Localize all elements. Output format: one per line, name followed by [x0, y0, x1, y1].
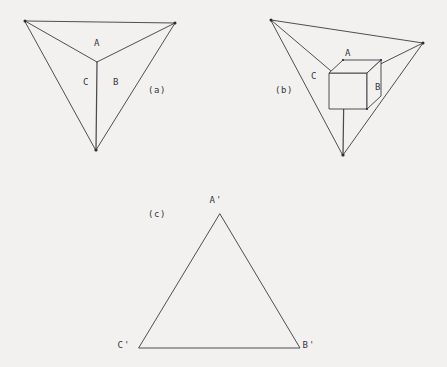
figure-canvas [0, 0, 447, 367]
panel-a-vertex-top-right [174, 22, 177, 25]
panel-c-triangle [139, 214, 300, 348]
panel-b-face-label-C: C [311, 71, 317, 81]
panel-a-face-label-B: B [113, 77, 119, 87]
panel-a-face-label-C: C [83, 77, 89, 87]
panel-b-face-label-B: B [375, 82, 381, 92]
panel-c-drawing [139, 214, 300, 348]
panel-a-caption: (a) [148, 85, 166, 95]
panel-c-vertex-label-C-prime: C' [118, 340, 131, 350]
panel-b-vertex-top-left [270, 19, 273, 22]
panel-a-edge-to-bottom [96, 62, 97, 150]
cube-corner-bottom-front [366, 108, 368, 110]
panel-c-vertex-label-B-prime: B' [303, 340, 316, 350]
panel-a-vertex-top-left [24, 20, 27, 23]
panel-b-caption: (b) [275, 85, 293, 95]
panel-c-vertex-label-A-prime: A' [210, 195, 223, 205]
panel-b-vertex-bottom [341, 153, 344, 156]
panel-a-face-label-A: A [94, 38, 100, 48]
panel-a-vertex-bottom [94, 148, 97, 151]
cube-corner-top-left [342, 59, 344, 61]
panel-b-face-label-A: A [345, 48, 351, 58]
panel-c-caption: (c) [148, 209, 166, 219]
panel-b-vertex-top-right [422, 42, 425, 45]
cube-front-face [329, 73, 367, 109]
cube-corner-top-right [380, 59, 382, 61]
